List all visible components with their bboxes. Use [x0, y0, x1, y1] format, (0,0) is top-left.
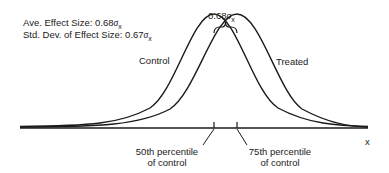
brace-label: 0.68σx [208, 10, 235, 25]
sd-effect-size: Std. Dev. of Effect Size: 0.67σx [23, 29, 152, 44]
p50-label: 50th percentile of control [131, 146, 203, 168]
p50-leader [203, 129, 214, 145]
control-label: Control [139, 55, 170, 66]
treated-label: Treated [276, 56, 308, 67]
p75-label: 75th percentile of control [243, 146, 317, 168]
x-axis-label: x [365, 136, 370, 147]
p75-leader [237, 129, 247, 145]
